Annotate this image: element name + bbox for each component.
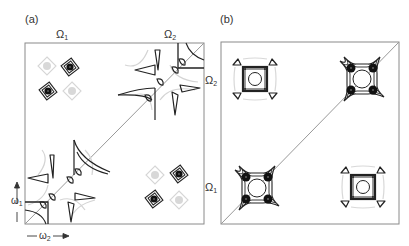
panel-a-plot [15,43,205,239]
figure-canvas [0,0,409,246]
panel-b-plot [221,42,399,224]
omega2-arrow-head-icon [63,234,69,239]
omega1-arrow-head-icon [15,182,20,188]
